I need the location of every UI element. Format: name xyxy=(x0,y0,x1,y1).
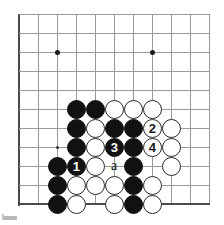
move-number: 1 xyxy=(73,159,80,172)
star-point xyxy=(150,50,155,55)
stone-white[interactable] xyxy=(143,100,162,119)
grid-line-horizontal xyxy=(19,33,209,34)
stone-black[interactable] xyxy=(105,119,124,138)
stone-black[interactable] xyxy=(124,157,143,176)
stone-white[interactable] xyxy=(86,119,105,138)
page-artifact-bar xyxy=(4,216,17,220)
stone-black[interactable] xyxy=(124,138,143,157)
stone-black[interactable] xyxy=(48,176,67,195)
move-number: 3 xyxy=(111,140,118,153)
grid-line-horizontal xyxy=(19,52,209,53)
go-board[interactable]: 2341 a xyxy=(0,0,224,225)
move-number: 4 xyxy=(149,140,156,153)
stone-white[interactable] xyxy=(162,138,181,157)
go-diagram-figure: 2341 a xyxy=(0,0,224,225)
stone-white[interactable] xyxy=(124,100,143,119)
stone-black[interactable] xyxy=(48,195,67,214)
board-edge-line-left xyxy=(18,14,20,206)
move-number: 2 xyxy=(149,121,156,134)
stone-black[interactable] xyxy=(124,195,143,214)
grid-line-vertical xyxy=(209,14,210,204)
stone-white[interactable] xyxy=(143,176,162,195)
numbered-stone-black[interactable]: 1 xyxy=(67,157,86,176)
numbered-stone-black[interactable]: 3 xyxy=(105,138,124,157)
point-label-a: a xyxy=(105,157,124,176)
star-point xyxy=(56,146,59,149)
stone-black[interactable] xyxy=(67,119,86,138)
stone-black[interactable] xyxy=(48,157,67,176)
stone-black[interactable] xyxy=(124,176,143,195)
stone-white[interactable] xyxy=(86,157,105,176)
stone-white[interactable] xyxy=(67,195,86,214)
stone-white[interactable] xyxy=(105,195,124,214)
stone-white[interactable] xyxy=(67,176,86,195)
stone-black[interactable] xyxy=(86,100,105,119)
stone-white[interactable] xyxy=(143,195,162,214)
grid-line-horizontal xyxy=(19,90,209,91)
stone-white[interactable] xyxy=(86,138,105,157)
stone-white[interactable] xyxy=(162,157,181,176)
stone-white[interactable] xyxy=(86,176,105,195)
stone-black[interactable] xyxy=(67,100,86,119)
stone-white[interactable] xyxy=(162,119,181,138)
numbered-stone-white[interactable]: 2 xyxy=(143,119,162,138)
stone-black[interactable] xyxy=(67,138,86,157)
grid-line-horizontal xyxy=(19,71,209,72)
stone-white[interactable] xyxy=(105,100,124,119)
stone-black[interactable] xyxy=(124,119,143,138)
grid-line-horizontal xyxy=(19,14,209,15)
stone-white[interactable] xyxy=(105,176,124,195)
numbered-stone-white[interactable]: 4 xyxy=(143,138,162,157)
star-point xyxy=(55,50,60,55)
